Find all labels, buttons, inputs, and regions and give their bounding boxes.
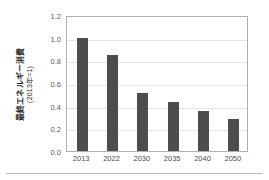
- bar: [137, 93, 148, 151]
- y-axis-tick-label: 0.4: [38, 102, 64, 111]
- bar: [198, 111, 209, 151]
- x-axis-tick-label: 2040: [194, 154, 211, 163]
- y-axis-tick-labels: 0.00.20.40.60.81.01.2: [38, 0, 64, 180]
- bar: [228, 119, 239, 151]
- bar: [77, 38, 88, 151]
- y-axis-tick-label: 0.0: [38, 148, 64, 157]
- x-axis-tick-label: 2022: [103, 154, 120, 163]
- plot-area: [66, 16, 248, 152]
- y-axis-title: 最終エネルギー消費 (2013年=1): [8, 16, 42, 152]
- footer-divider: [6, 173, 263, 174]
- bar: [107, 55, 118, 151]
- y-axis-tick-label: 0.2: [38, 125, 64, 134]
- x-axis-tick-labels: 201320222030203520402050: [66, 154, 248, 168]
- y-axis-title-main: 最終エネルギー消費: [17, 47, 25, 121]
- bar-series: [67, 17, 247, 151]
- x-axis-tick-label: 2013: [73, 154, 90, 163]
- y-axis-tick-label: 0.8: [38, 57, 64, 66]
- x-axis-tick-label: 2030: [133, 154, 150, 163]
- x-axis-tick-label: 2050: [224, 154, 241, 163]
- x-axis-tick-label: 2035: [164, 154, 181, 163]
- chart-figure: 最終エネルギー消費 (2013年=1) 0.00.20.40.60.81.01.…: [0, 0, 269, 180]
- bar: [168, 102, 179, 151]
- y-axis-title-sub: (2013年=1): [26, 65, 33, 102]
- y-axis-tick-label: 0.6: [38, 80, 64, 89]
- y-axis-tick-label: 1.0: [38, 34, 64, 43]
- y-axis-tick-label: 1.2: [38, 12, 64, 21]
